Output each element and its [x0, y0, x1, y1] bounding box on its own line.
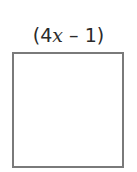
square-shape [12, 52, 124, 168]
constant: 1 [85, 24, 97, 46]
operator: – [63, 24, 85, 46]
variable: x [52, 24, 63, 46]
coefficient: 4 [40, 24, 52, 46]
side-length-label: (4x – 1) [0, 22, 137, 48]
close-paren: ) [97, 24, 104, 46]
